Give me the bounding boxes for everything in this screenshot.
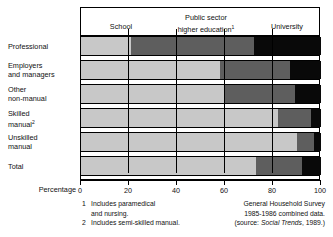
x-tick bbox=[176, 180, 177, 185]
source-line3: (source: Social Trends, 1989.) bbox=[234, 218, 325, 228]
bar-segment-university bbox=[295, 85, 321, 103]
row-label-line2: manual bbox=[8, 142, 80, 151]
bar-segment-public-sector-higher-education bbox=[225, 85, 295, 103]
gridline bbox=[176, 29, 177, 173]
row-label-superscript: 2 bbox=[32, 119, 35, 125]
x-tick-label: 100 bbox=[305, 186, 333, 195]
row-label: Professional bbox=[8, 42, 80, 51]
bar-row bbox=[80, 84, 320, 104]
gridline bbox=[128, 29, 129, 173]
x-tick bbox=[128, 180, 129, 185]
bar-row bbox=[80, 60, 320, 80]
bar-segment-school bbox=[81, 157, 256, 175]
row-label-line1: Skilled bbox=[8, 109, 80, 118]
bar-row bbox=[80, 36, 320, 56]
source-line3-post: , 1989.) bbox=[302, 219, 325, 226]
row-label: Othernon-manual bbox=[8, 85, 80, 103]
row-label: Employersand managers bbox=[8, 61, 80, 79]
x-tick bbox=[272, 180, 273, 185]
bar-row bbox=[80, 156, 320, 176]
row-label-line2: and managers bbox=[8, 70, 80, 79]
gridline bbox=[224, 29, 225, 173]
row-label-line1: Professional bbox=[8, 42, 80, 51]
source-line2: 1985-1986 combined data. bbox=[234, 209, 325, 219]
bar-segment-public-sector-higher-education bbox=[220, 61, 290, 79]
row-label: Unskilledmanual bbox=[8, 133, 80, 151]
x-tick-label: 20 bbox=[113, 186, 143, 195]
footnote-2-number: 2 bbox=[82, 218, 86, 228]
bar-row bbox=[80, 132, 320, 152]
legend-header-band: School Public sector higher education1 U… bbox=[80, 7, 320, 36]
bar-segment-school bbox=[81, 85, 225, 103]
footnote-2-text: Includes semi-skilled manual. bbox=[91, 219, 180, 226]
legend-label-public-sector-superscript: 1 bbox=[232, 24, 235, 30]
row-label: Skilledmanual2 bbox=[8, 109, 80, 129]
row-label-line1: Unskilled bbox=[8, 133, 80, 142]
footnote-1-number: 1 bbox=[82, 199, 86, 209]
bar-segment-public-sector-higher-education bbox=[297, 133, 314, 151]
x-axis-line bbox=[80, 180, 320, 181]
figure-stacked-bar-chart: School Public sector higher education1 U… bbox=[0, 0, 333, 237]
x-tick bbox=[224, 180, 225, 185]
footnote-1: 1 Includes paramedical bbox=[82, 199, 180, 209]
bar-segment-university bbox=[311, 109, 321, 127]
source-note: General Household Survey 1985-1986 combi… bbox=[234, 199, 325, 228]
footnotes: 1 Includes paramedical and nursing. 2 In… bbox=[82, 199, 180, 228]
row-label-line1: Other bbox=[8, 85, 80, 94]
bars-container bbox=[80, 36, 320, 180]
x-tick bbox=[320, 180, 321, 185]
row-label: Total bbox=[8, 162, 80, 171]
bar-segment-university bbox=[314, 133, 321, 151]
legend-label-university-text: University bbox=[271, 22, 303, 31]
bar-segment-university bbox=[302, 157, 321, 175]
footnote-1-continuation: and nursing. bbox=[82, 209, 180, 219]
footnote-1-text: Includes paramedical bbox=[91, 200, 155, 207]
bar-segment-public-sector-higher-education bbox=[278, 109, 312, 127]
row-label-line2: manual2 bbox=[8, 118, 80, 129]
gridline bbox=[272, 29, 273, 173]
row-label-line1: Employers bbox=[8, 61, 80, 70]
legend-label-school: School bbox=[90, 23, 152, 32]
bar-segment-university bbox=[254, 37, 321, 55]
bar-segment-public-sector-higher-education bbox=[256, 157, 302, 175]
legend-label-public-sector: Public sector higher education1 bbox=[152, 14, 260, 35]
bar-segment-school bbox=[81, 133, 297, 151]
bar-segment-school bbox=[81, 37, 131, 55]
x-tick bbox=[80, 180, 81, 185]
bar-row bbox=[80, 108, 320, 128]
x-tick-label: 80 bbox=[257, 186, 287, 195]
bar-segment-university bbox=[290, 61, 321, 79]
x-tick-label: 60 bbox=[209, 186, 239, 195]
source-publication-name: Social Trends bbox=[261, 219, 302, 226]
legend-label-public-sector-line1: Public sector bbox=[185, 13, 227, 22]
bar-segment-public-sector-higher-education bbox=[131, 37, 253, 55]
row-label-line1: Total bbox=[8, 162, 80, 171]
row-label-line2: non-manual bbox=[8, 94, 80, 103]
bar-segment-school bbox=[81, 61, 220, 79]
axis-title-percentage: Percentage bbox=[8, 185, 76, 194]
source-line3-pre: (source: bbox=[234, 219, 260, 226]
x-tick-label: 40 bbox=[161, 186, 191, 195]
legend-label-university: University bbox=[256, 23, 318, 32]
footnote-2: 2 Includes semi-skilled manual. bbox=[82, 218, 180, 228]
bar-segment-school bbox=[81, 109, 278, 127]
source-line1: General Household Survey bbox=[234, 199, 325, 209]
